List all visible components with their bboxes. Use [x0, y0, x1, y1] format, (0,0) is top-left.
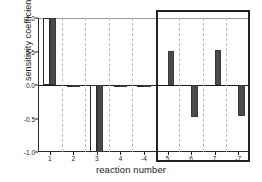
gridline-vertical [85, 18, 86, 152]
y-tick-label: 0.5 [26, 48, 35, 55]
chart-figure: sensitivity coefficient 1.00.50.0-0.5-1.… [0, 0, 262, 182]
bar-dark-5 [168, 51, 175, 85]
y-tick-mark [35, 18, 38, 19]
bar-dark-4 [120, 85, 127, 87]
y-tick-label: 1.0 [26, 15, 35, 22]
plot-area: 1.00.50.0-0.5-1.0 1234-4567-7 [38, 18, 250, 152]
bar-light-4 [114, 85, 121, 87]
bar-dark-1 [50, 18, 57, 85]
y-tick-label: -1.0 [24, 149, 35, 156]
x-tick-label: 3 [95, 155, 99, 162]
x-tick-mark [97, 152, 98, 155]
x-tick-mark [168, 152, 169, 155]
x-tick-label: 7 [213, 155, 217, 162]
y-tick-mark [35, 51, 38, 52]
gridline-vertical [132, 18, 133, 152]
bar-light--4 [137, 85, 144, 87]
gridline-vertical [156, 18, 157, 152]
plot-top-rule [38, 18, 250, 19]
x-tick-label: 5 [166, 155, 170, 162]
x-tick-mark [120, 152, 121, 155]
bar-dark-3 [97, 85, 104, 152]
bar-dark--7 [238, 85, 245, 116]
gridline-vertical [203, 18, 204, 152]
x-tick-mark [144, 152, 145, 155]
x-tick-mark [215, 152, 216, 155]
x-tick-label: 6 [189, 155, 193, 162]
y-tick-mark [35, 85, 38, 86]
bar-dark-2 [73, 85, 80, 87]
x-tick-mark [191, 152, 192, 155]
bar-dark-7 [215, 50, 222, 85]
gridline-vertical [62, 18, 63, 152]
y-tick-label: 0.0 [26, 82, 35, 89]
bar-dark--4 [144, 85, 151, 87]
gridline-vertical [226, 18, 227, 152]
x-tick-mark [50, 152, 51, 155]
gridline-vertical [109, 18, 110, 152]
gridline-vertical [179, 18, 180, 152]
x-tick-label: -4 [141, 155, 147, 162]
bar-light-2 [67, 85, 74, 87]
x-tick-mark [73, 152, 74, 155]
x-axis-title: reaction number [0, 164, 262, 175]
bar-dark-6 [191, 85, 198, 117]
x-tick-label: 2 [72, 155, 76, 162]
x-tick-label: 1 [48, 155, 52, 162]
y-tick-mark [35, 118, 38, 119]
x-tick-mark [238, 152, 239, 155]
y-tick-label: -0.5 [24, 115, 35, 122]
y-tick-mark [35, 152, 38, 153]
x-tick-label: -7 [235, 155, 241, 162]
x-tick-label: 4 [119, 155, 123, 162]
bar-light-3 [90, 85, 97, 152]
bar-light-1 [43, 18, 50, 85]
